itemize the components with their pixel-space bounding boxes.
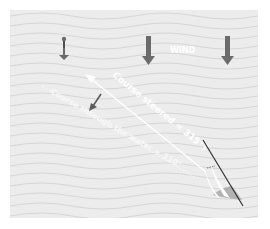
wind-label: WIND [170,46,195,55]
current-arrow-icon [59,37,69,60]
course-steered-label: Course steered = 315°T [111,70,211,154]
sailboat-icon [203,140,243,206]
wind-arrow-left-icon [142,36,155,65]
wind-arrow-right-icon [221,36,234,65]
diagram-canvas: WIND Course steered = 315°T Course throu… [10,10,258,218]
diagram-panel: WIND Course steered = 315°T Course throu… [10,10,258,218]
